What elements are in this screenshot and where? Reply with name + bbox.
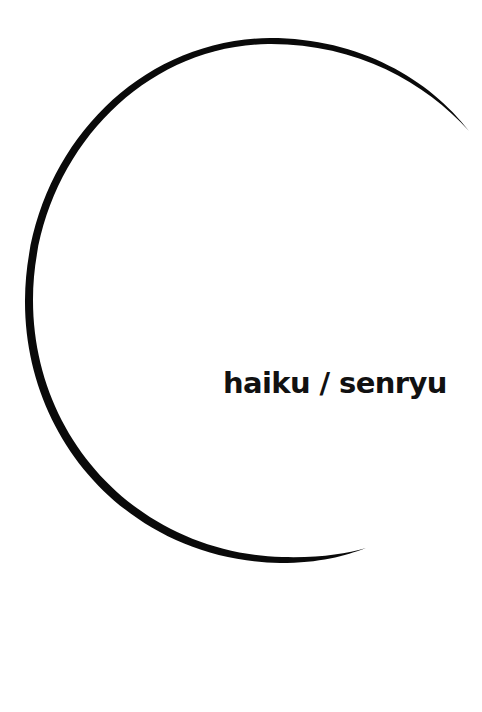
cover-page: haiku / senryu — [0, 0, 482, 712]
cover-title: haiku / senryu — [223, 369, 447, 398]
enso-circle-icon — [0, 0, 482, 712]
